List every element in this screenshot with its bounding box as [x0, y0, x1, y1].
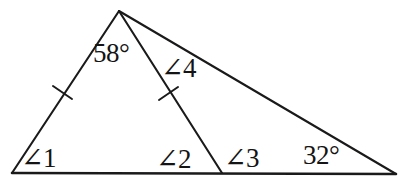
angle-label-1: ∠1: [21, 145, 56, 172]
geometry-figure: 58° ∠4 ∠1 ∠2 ∠3 32°: [0, 0, 408, 186]
angle-label-32-degrees: 32°: [303, 142, 339, 169]
base-segment: [12, 173, 396, 174]
geometry-canvas: [0, 0, 408, 186]
angle-label-4: ∠4: [161, 55, 196, 82]
angle-label-58-degrees: 58°: [93, 40, 129, 67]
angle-label-3: ∠3: [224, 145, 259, 172]
angle-label-2: ∠2: [156, 146, 191, 173]
